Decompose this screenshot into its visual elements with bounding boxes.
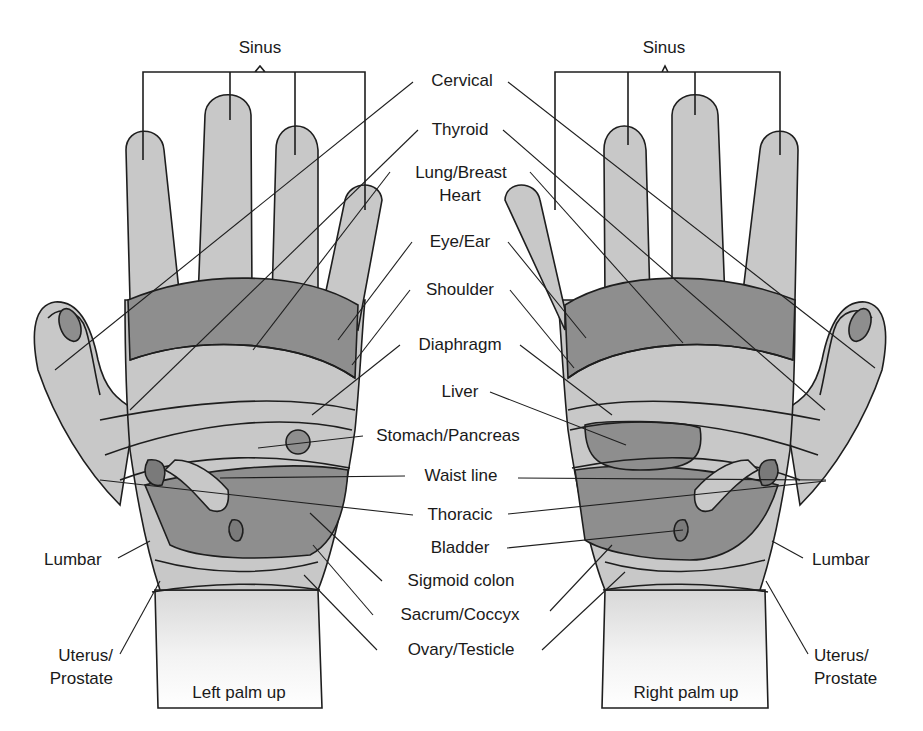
- label-lumbar-left: Lumbar: [44, 550, 102, 570]
- label-lung-breast: Lung/Breast: [415, 163, 507, 183]
- label-sinus-left: Sinus: [239, 38, 282, 58]
- label-sinus-right: Sinus: [643, 38, 686, 58]
- left-sinus-bracket: [143, 66, 365, 210]
- right-ring-finger: [672, 95, 725, 300]
- right-hand: [505, 66, 886, 708]
- label-bladder: Bladder: [431, 538, 490, 558]
- label-sigmoid-colon: Sigmoid colon: [408, 571, 515, 591]
- label-uterus-prostate-right-line1: Uterus/: [814, 646, 869, 666]
- label-heart: Heart: [439, 186, 481, 206]
- left-zone-lower: [145, 466, 348, 558]
- label-liver: Liver: [442, 382, 479, 402]
- label-ovary-testicle: Ovary/Testicle: [408, 640, 515, 660]
- label-cervical: Cervical: [431, 71, 492, 91]
- label-uterus-prostate-left-line2: Prostate: [30, 669, 113, 689]
- right-middle-finger: [604, 126, 650, 300]
- right-thumb: [785, 302, 886, 505]
- label-thoracic: Thoracic: [427, 505, 492, 525]
- label-thyroid: Thyroid: [432, 120, 489, 140]
- label-stomach-pancreas: Stomach/Pancreas: [376, 426, 520, 446]
- left-ring-finger: [198, 95, 252, 300]
- label-shoulder: Shoulder: [426, 280, 494, 300]
- left-little-finger: [126, 131, 180, 300]
- label-diaphragm: Diaphragm: [418, 335, 501, 355]
- label-lumbar-right: Lumbar: [812, 550, 870, 570]
- label-eye-ear: Eye/Ear: [430, 232, 490, 252]
- caption-left-palm: Left palm up: [192, 683, 286, 703]
- left-hand: [34, 66, 382, 708]
- right-index-finger: [505, 185, 565, 330]
- label-uterus-prostate-right-line2: Prostate: [814, 669, 877, 689]
- caption-right-palm: Right palm up: [634, 683, 739, 703]
- right-sinus-bracket: [555, 66, 780, 210]
- left-bladder: [229, 520, 243, 541]
- label-uterus-prostate-left-line1: Uterus/: [40, 646, 113, 666]
- label-sacrum-coccyx: Sacrum/Coccyx: [400, 605, 519, 625]
- label-waist-line: Waist line: [424, 466, 497, 486]
- right-little-finger: [742, 131, 798, 300]
- left-thumb: [34, 302, 135, 505]
